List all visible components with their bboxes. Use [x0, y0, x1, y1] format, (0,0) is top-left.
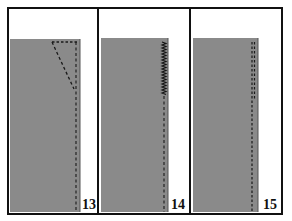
fabric-piece — [193, 38, 258, 212]
sewing-steps-figure: 13 14 15 — [0, 0, 292, 221]
panel-14 — [101, 38, 168, 212]
panel-13 — [10, 39, 80, 212]
fabric-piece — [101, 38, 168, 212]
panel-15 — [193, 38, 258, 212]
step-label-14: 14 — [171, 198, 185, 212]
step-label-13: 13 — [82, 198, 96, 212]
figure-drawing — [0, 0, 292, 221]
fabric-piece — [10, 39, 80, 212]
step-label-15: 15 — [263, 198, 277, 212]
